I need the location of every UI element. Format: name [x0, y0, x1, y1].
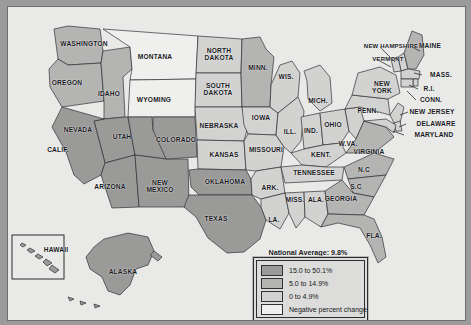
state-label-new-york: NEWYORK [372, 81, 392, 94]
state-label-wyoming: WYOMING [137, 97, 171, 104]
state-label-vermont: VERMONT [372, 56, 403, 62]
state-label-la: LA. [268, 217, 279, 224]
us-choropleth-map: .s{stroke:#2f3134;stroke-width:.7;stroke… [8, 7, 465, 320]
state-label-oklahoma: OKLAHOMA [205, 179, 245, 186]
state-label-s-c: S.C [350, 184, 362, 191]
legend-item[interactable]: 5.0 to 14.9% [261, 277, 360, 290]
state-rhode-island[interactable] [413, 79, 418, 86]
legend-label: 5.0 to 14.9% [289, 280, 328, 287]
legend-label: 0 to 4.9% [289, 293, 319, 300]
map-screenshot: .s{stroke:#2f3134;stroke-width:.7;stroke… [0, 0, 471, 325]
state-label-new-jersey: NEW JERSEY [409, 109, 454, 116]
state-label-delaware: DELAWARE [417, 121, 456, 128]
state-label-calif: CALIF. [47, 147, 69, 154]
legend-swatch-dark [261, 265, 283, 276]
state-label-texas: TEXAS [205, 216, 228, 223]
state-label-tennessee: TENNESSEE [293, 170, 335, 177]
state-label-south-dakota: SOUTHDAKOTA [204, 83, 233, 96]
state-label-fla: FLA. [366, 233, 381, 240]
state-label-n-c: N.C [358, 167, 370, 174]
state-label-iowa: IOWA [252, 115, 270, 122]
state-label-washington: WASHINGTON [60, 41, 107, 48]
national-average-note: National Average: 9.8% [269, 248, 348, 257]
state-label-new-hampshire: NEW HAMPSHIRE [364, 43, 418, 49]
state-label-ill: ILL. [284, 129, 297, 136]
state-label-utah: UTAH [113, 134, 132, 141]
state-label-mich: MICH. [308, 98, 328, 105]
state-label-miss: MISS. [286, 197, 305, 204]
legend-swatch-white [261, 304, 283, 315]
state-label-alaska: ALASKA [109, 269, 138, 276]
state-label-ohio: OHIO [324, 122, 342, 129]
state-label-idaho: IDAHO [98, 91, 120, 98]
state-label-missouri: MISSOURI [249, 147, 283, 154]
legend-item[interactable]: 0 to 4.9% [261, 290, 360, 303]
state-label-oregon: OREGON [52, 80, 83, 87]
state-label-mass: MASS. [430, 72, 452, 79]
state-label-kent: KENT. [311, 152, 331, 159]
legend-swatch-medium [261, 278, 283, 289]
state-label-colorado: COLORADO [156, 137, 196, 144]
state-label-ark: ARK. [262, 185, 279, 192]
legend-swatch-light [261, 291, 283, 302]
legend-label: 15.0 to 50.1% [289, 267, 332, 274]
state-label-nevada: NEVADA [64, 127, 93, 134]
state-label-arizona: ARIZONA [94, 184, 125, 191]
state-label-ala: ALA. [308, 197, 324, 204]
state-label-ind: IND. [304, 128, 318, 135]
state-label-montana: MONTANA [138, 54, 173, 61]
state-label-georgia: GEORGIA [325, 196, 358, 203]
legend-rows: 15.0 to 50.1%5.0 to 14.9%0 to 4.9%Negati… [256, 260, 365, 318]
state-label-conn: CONN. [420, 97, 442, 104]
state-label-virginia: VIRGINIA [354, 149, 385, 156]
state-label-hawaii: HAWAII [44, 247, 69, 254]
map-frame: .s{stroke:#2f3134;stroke-width:.7;stroke… [7, 6, 466, 321]
state-label-kansas: KANSAS [209, 152, 238, 159]
state-label-new-mexico: NEWMEXICO [146, 180, 173, 193]
legend-item[interactable]: Negative percent change [261, 303, 360, 316]
state-label-wis: WIS. [278, 74, 293, 81]
state-label-maryland: MARYLAND [414, 132, 453, 139]
state-label-maine: MAINE [419, 43, 441, 50]
state-label-w-va: W.VA. [338, 141, 357, 148]
map-legend: 15.0 to 50.1%5.0 to 14.9%0 to 4.9%Negati… [253, 257, 368, 321]
legend-label: Negative percent change [289, 306, 367, 313]
state-label-r-i: R.I. [423, 86, 434, 93]
legend-item[interactable]: 15.0 to 50.1% [261, 264, 360, 277]
state-label-penn: PENN. [357, 108, 378, 115]
state-label-minn: MINN. [248, 65, 268, 72]
state-label-nebraska: NEBRASKA [200, 123, 239, 130]
state-label-north-dakota: NORTHDAKOTA [205, 48, 234, 61]
